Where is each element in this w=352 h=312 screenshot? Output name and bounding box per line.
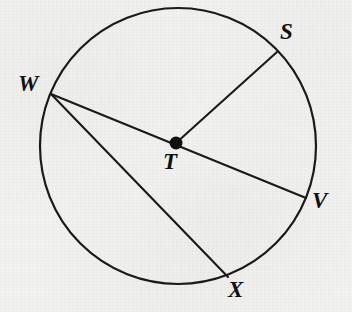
point-label-X: X [228,278,243,301]
point-label-S: S [280,20,293,43]
point-label-W: W [18,72,38,95]
point-label-V: V [312,189,327,212]
geometry-figure: S W V X T [0,0,352,312]
center-point-dot [170,137,183,150]
radius-segment-TS [176,52,277,143]
center-label-T: T [163,150,177,173]
